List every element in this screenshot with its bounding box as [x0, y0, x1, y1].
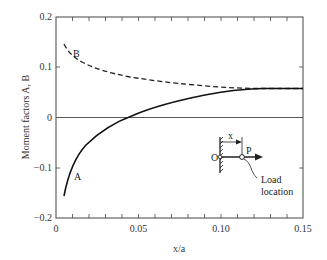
curve-a-label: A [74, 171, 82, 182]
x-tick-label: 0 [54, 223, 59, 234]
dimension-arrowhead [236, 140, 242, 145]
y-tick-label: 0.2 [40, 11, 53, 22]
curve-b-label: B [73, 48, 80, 59]
y-axis-label: Moment factors A, B [20, 74, 31, 159]
callout-line-1: Load [261, 174, 282, 185]
y-tick-label: −0.2 [34, 212, 52, 223]
callout-line-2: location [261, 186, 293, 197]
callout-line [244, 159, 257, 178]
y-tick-label: 0.1 [40, 61, 53, 72]
x-tick-label: 0.10 [212, 223, 230, 234]
inset-diagram: x O P Load location [211, 130, 293, 197]
inset-point-label: P [246, 145, 252, 156]
inset-origin-label: O [211, 152, 218, 163]
x-tick-label: 0.15 [294, 223, 312, 234]
x-tick-label: 0.05 [130, 223, 148, 234]
inset-x-label: x [228, 130, 233, 141]
load-point [240, 155, 245, 160]
axis-arrowhead [255, 154, 263, 161]
y-tick-label: −0.1 [34, 162, 52, 173]
x-axis-label: x/a [173, 243, 186, 254]
curve-b [64, 44, 303, 89]
y-tick-label: 0 [47, 112, 52, 123]
moment-factor-chart: 0.2 0.1 0 −0.1 −0.2 0 0.05 0.10 0.15 x/a… [0, 0, 327, 260]
